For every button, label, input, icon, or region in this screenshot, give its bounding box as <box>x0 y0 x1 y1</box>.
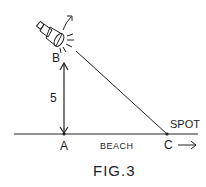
point-a-label: A <box>60 139 68 153</box>
spot-label: SPOT <box>170 118 200 130</box>
right-arrow-icon <box>178 141 196 149</box>
beach-label: BEACH <box>100 141 134 151</box>
height-label: 5 <box>50 91 57 105</box>
figure-caption: FIG.3 <box>93 162 136 179</box>
point-b-label: B <box>52 51 60 65</box>
spotlight-icon <box>37 21 74 53</box>
point-c-label: C <box>164 138 173 152</box>
height-line-ab <box>60 63 68 133</box>
point-c-dot <box>165 132 168 135</box>
diagram-canvas: B 5 A BEACH C SPOT FIG.3 <box>0 0 206 187</box>
rotation-arrow-icon <box>63 16 72 30</box>
light-beam-bc <box>76 51 167 134</box>
point-a-dot <box>62 132 65 135</box>
